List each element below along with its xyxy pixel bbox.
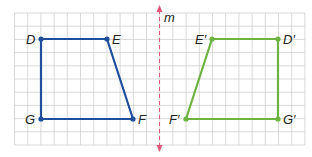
label-D: D: [26, 32, 35, 47]
mirror-label: m: [164, 10, 175, 25]
vertex-F-prime: [183, 116, 188, 121]
vertex-G: [38, 116, 43, 121]
reflection-diagram: m D E F G E′ D′ F′ G′: [0, 0, 312, 157]
label-F: F: [138, 112, 147, 127]
label-D-prime: D′: [283, 32, 295, 47]
vertex-D: [38, 36, 43, 41]
vertex-F: [130, 116, 135, 121]
label-G: G: [25, 112, 35, 127]
label-F-prime: F′: [169, 112, 180, 127]
vertex-E: [104, 36, 109, 41]
label-E-prime: E′: [195, 32, 207, 47]
label-E: E: [112, 32, 121, 47]
vertex-E-prime: [209, 36, 214, 41]
vertex-D-prime: [275, 36, 280, 41]
mirror-arrow-down-icon: [157, 145, 163, 152]
label-G-prime: G′: [283, 112, 296, 127]
mirror-arrow-up-icon: [157, 5, 163, 12]
vertex-G-prime: [275, 116, 280, 121]
